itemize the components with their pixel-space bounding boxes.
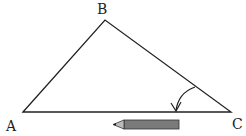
vertex-label-c: C [232,116,243,132]
triangle-abc [23,20,231,112]
curved-arrow-icon [171,87,195,111]
vertex-label-a: A [5,118,17,134]
vertex-label-b: B [97,1,107,17]
triangle-diagram: A B C [0,0,246,136]
pencil-icon [113,120,179,129]
